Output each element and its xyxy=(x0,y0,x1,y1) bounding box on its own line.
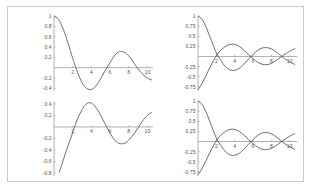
chart-panel-top-right: 10.750.50.25-0.25-0.5-0.75246810 xyxy=(165,12,300,95)
y-tick-label: 0.6 xyxy=(44,34,51,40)
y-tick-label: 0.4 xyxy=(44,101,51,107)
y-tick-label: -0.75 xyxy=(184,84,196,90)
y-tick-label: -0.2 xyxy=(43,135,52,141)
chart-panel-top-left: 10.80.60.40.2-0.2-0.4246810 xyxy=(21,12,156,95)
y-tick-label: 1 xyxy=(193,98,196,104)
y-tick-label: 0.75 xyxy=(186,23,196,29)
y-tick-label: 0.5 xyxy=(188,118,195,124)
x-tick-label: 6 xyxy=(109,69,112,75)
y-tick-label: 0.2 xyxy=(44,54,51,60)
y-tick-label: 0.5 xyxy=(188,33,195,39)
y-tick-label: 0.75 xyxy=(186,108,196,114)
x-tick-label: 4 xyxy=(90,69,93,75)
y-tick-label: -0.6 xyxy=(43,158,52,164)
y-tick-label: -0.5 xyxy=(187,74,196,80)
x-tick-label: 4 xyxy=(233,58,236,64)
plot-top-right: 10.750.50.25-0.25-0.5-0.75246810 xyxy=(165,12,300,95)
y-tick-label: -0.4 xyxy=(43,147,52,153)
data-curve xyxy=(59,103,152,173)
x-tick-label: 2 xyxy=(215,58,218,64)
data-curve xyxy=(198,44,295,90)
x-tick-label: 2 xyxy=(71,69,74,75)
y-tick-label: 0.25 xyxy=(186,128,196,134)
x-tick-label: 8 xyxy=(127,69,130,75)
plot-bottom-left: 0.40.2-0.2-0.4-0.6-0.8246810 xyxy=(21,97,156,180)
x-tick-label: 8 xyxy=(127,128,130,134)
y-tick-label: -0.5 xyxy=(187,159,196,165)
chart-panel-bottom-right: 10.750.50.25-0.25-0.5-0.75246810 xyxy=(165,97,300,180)
data-curve xyxy=(54,16,152,90)
y-tick-label: -0.2 xyxy=(43,75,52,81)
y-tick-label: -0.8 xyxy=(43,170,52,176)
y-tick-label: 1 xyxy=(49,13,52,19)
y-tick-label: -0.75 xyxy=(184,169,196,175)
y-tick-label: 0.8 xyxy=(44,23,51,29)
y-tick-label: 0.4 xyxy=(44,44,51,50)
figure-frame: 10.80.60.40.2-0.2-0.4246810 10.750.50.25… xyxy=(7,6,304,182)
y-tick-label: -0.4 xyxy=(43,85,52,91)
x-tick-label: 10 xyxy=(145,69,151,75)
y-tick-label: -0.25 xyxy=(184,149,196,155)
y-tick-label: 1 xyxy=(193,13,196,19)
y-tick-label: 0.2 xyxy=(44,112,51,118)
data-curve xyxy=(198,129,295,175)
y-tick-label: -0.25 xyxy=(184,64,196,70)
y-tick-label: 0.25 xyxy=(186,43,196,49)
x-tick-label: 4 xyxy=(233,143,236,149)
x-tick-label: 2 xyxy=(215,143,218,149)
chart-panel-bottom-left: 0.40.2-0.2-0.4-0.6-0.8246810 xyxy=(21,97,156,180)
x-tick-label: 10 xyxy=(145,128,151,134)
plot-bottom-right: 10.750.50.25-0.25-0.5-0.75246810 xyxy=(165,97,300,180)
plot-top-left: 10.80.60.40.2-0.2-0.4246810 xyxy=(21,12,156,95)
x-tick-label: 4 xyxy=(90,128,93,134)
